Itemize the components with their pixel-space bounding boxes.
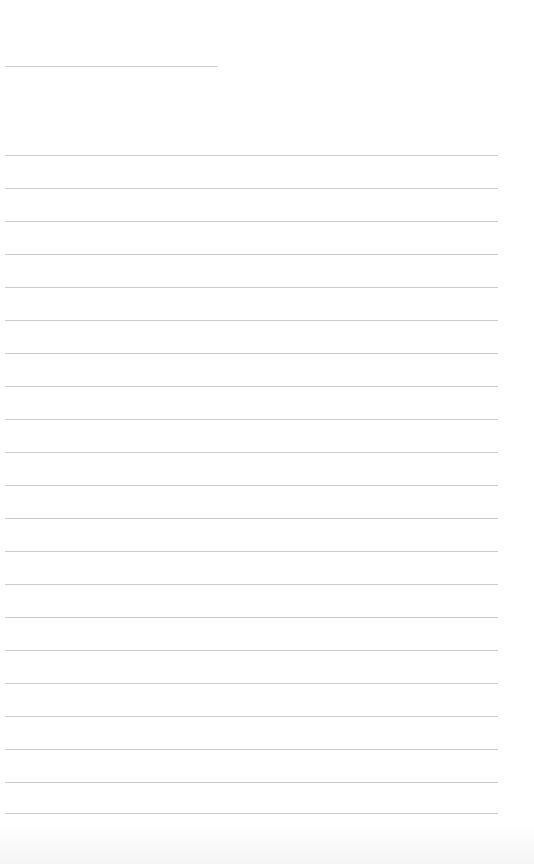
ruled-line xyxy=(5,518,498,519)
ruled-line xyxy=(5,155,498,156)
ruled-line xyxy=(5,813,498,814)
ruled-line xyxy=(5,650,498,651)
ruled-line xyxy=(5,320,498,321)
ruled-line xyxy=(5,683,498,684)
ruled-line xyxy=(5,485,498,486)
header-rule-line xyxy=(5,66,218,67)
ruled-line xyxy=(5,716,498,717)
ruled-line xyxy=(5,254,498,255)
ruled-line xyxy=(5,221,498,222)
ruled-line xyxy=(5,749,498,750)
ruled-line xyxy=(5,584,498,585)
ruled-line xyxy=(5,287,498,288)
ruled-line xyxy=(5,188,498,189)
ruled-line xyxy=(5,452,498,453)
ruled-line xyxy=(5,419,498,420)
ruled-line xyxy=(5,551,498,552)
scan-shadow xyxy=(0,824,534,864)
ruled-line xyxy=(5,386,498,387)
ruled-line xyxy=(5,782,498,783)
ruled-line xyxy=(5,353,498,354)
lined-paper-page xyxy=(0,0,534,864)
ruled-line xyxy=(5,617,498,618)
